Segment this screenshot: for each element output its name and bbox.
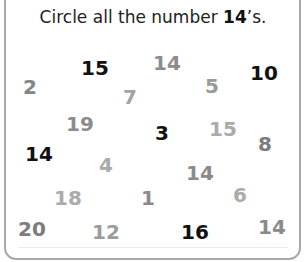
worksheet-frame [4, 0, 301, 260]
number-item[interactable]: 20 [18, 219, 46, 239]
number-item[interactable]: 8 [258, 134, 272, 154]
number-item[interactable]: 3 [155, 123, 169, 143]
instruction-prefix: Circle all the number [40, 7, 223, 27]
number-item[interactable]: 4 [99, 155, 113, 175]
number-item[interactable]: 5 [205, 76, 219, 96]
instruction-title: Circle all the number 14’s. [0, 7, 306, 27]
number-item[interactable]: 15 [209, 119, 237, 139]
number-item[interactable]: 7 [123, 87, 137, 107]
number-item[interactable]: 18 [54, 188, 82, 208]
number-item[interactable]: 12 [92, 222, 120, 242]
number-item[interactable]: 6 [233, 185, 247, 205]
number-item[interactable]: 1 [141, 188, 155, 208]
number-item[interactable]: 14 [153, 53, 181, 73]
number-item[interactable]: 16 [181, 222, 209, 242]
number-item[interactable]: 10 [250, 63, 278, 83]
number-item[interactable]: 14 [25, 144, 53, 164]
number-item[interactable]: 15 [81, 58, 109, 78]
number-item[interactable]: 2 [23, 77, 37, 97]
number-item[interactable]: 14 [186, 163, 214, 183]
number-item[interactable]: 19 [66, 114, 94, 134]
instruction-target-number: 14 [223, 7, 247, 27]
divider-line [18, 247, 288, 248]
number-item[interactable]: 14 [258, 217, 286, 237]
instruction-suffix: ’s. [247, 7, 267, 27]
